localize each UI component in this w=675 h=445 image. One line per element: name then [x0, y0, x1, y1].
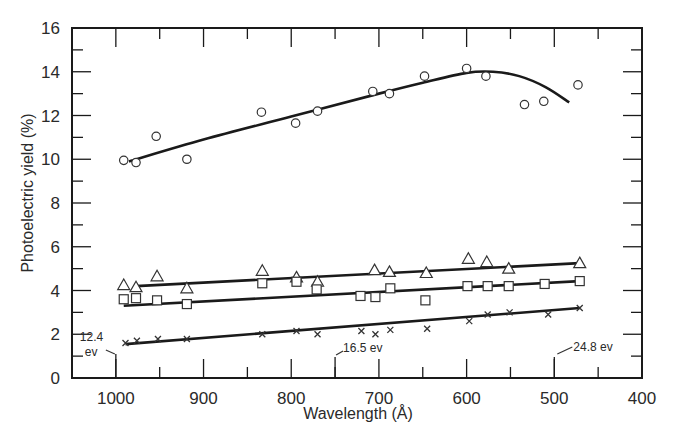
- data-markers: [118, 64, 586, 346]
- squares-marker: [575, 277, 584, 286]
- annotation-ev-unit: ev: [85, 345, 98, 359]
- crosses-marker: [358, 328, 364, 334]
- squares-marker: [292, 277, 301, 286]
- crosses-marker: [315, 331, 321, 337]
- crosses-marker: [466, 318, 472, 324]
- squares-marker: [504, 282, 513, 291]
- x-tick-label: 400: [628, 389, 656, 408]
- crosses-marker: [424, 326, 430, 332]
- x-tick-label: 500: [540, 389, 568, 408]
- circles-marker: [132, 158, 140, 166]
- squares-marker: [421, 296, 430, 305]
- fit-lines: [124, 71, 580, 344]
- y-tick-label: 8: [51, 194, 60, 213]
- y-tick-label: 2: [51, 325, 60, 344]
- squares-marker: [153, 296, 162, 305]
- triangles-marker: [462, 253, 474, 264]
- crosses-marker: [387, 327, 393, 333]
- circles-marker: [574, 81, 582, 89]
- circles-marker: [257, 108, 265, 116]
- y-tick-label: 4: [51, 282, 60, 301]
- crosses-marker: [372, 331, 378, 337]
- squares-marker: [371, 293, 380, 302]
- circles-marker: [420, 72, 428, 80]
- triangles-marker: [369, 264, 381, 275]
- y-axis-ticks: 0246810121416: [41, 19, 642, 388]
- arrow-icon: [557, 347, 572, 354]
- circles-marker: [520, 100, 528, 108]
- x-tick-label: 1000: [97, 389, 135, 408]
- annotation-12-4-ev: 12.4: [80, 330, 104, 344]
- circles-marker: [183, 155, 191, 163]
- squares-marker: [463, 282, 472, 291]
- photoelectric-yield-chart: 1000900800700600500400 0246810121416 12.…: [0, 0, 675, 445]
- squares-marker: [540, 279, 549, 288]
- squares-marker: [312, 285, 321, 294]
- circles-marker: [291, 119, 299, 127]
- squares-marker: [182, 300, 191, 309]
- circles-marker: [482, 72, 490, 80]
- arrow-icon: [106, 350, 115, 354]
- squares-marker: [386, 284, 395, 293]
- squares-marker: [119, 295, 128, 304]
- y-axis-title: Photoelectric yield (%): [19, 113, 36, 272]
- circles-marker: [120, 156, 128, 164]
- triangles-marker: [256, 265, 268, 276]
- squares-marker: [132, 294, 141, 303]
- squares-marker: [258, 279, 267, 288]
- circles-marker: [313, 107, 321, 115]
- circles-marker: [152, 132, 160, 140]
- y-tick-label: 0: [51, 369, 60, 388]
- y-tick-label: 12: [41, 107, 60, 126]
- triangles-marker: [118, 279, 130, 290]
- y-tick-label: 10: [41, 150, 60, 169]
- x-tick-label: 600: [452, 389, 480, 408]
- fit-curve-circles: [129, 71, 569, 161]
- circles-marker: [540, 97, 548, 105]
- x-tick-label: 800: [277, 389, 305, 408]
- crosses-marker: [545, 312, 551, 318]
- squares-marker: [483, 282, 492, 291]
- arrow-icon: [336, 351, 343, 355]
- y-tick-label: 16: [41, 19, 60, 38]
- annotation-24-8-ev: 24.8 ev: [573, 340, 612, 354]
- x-tick-label: 900: [189, 389, 217, 408]
- triangles-marker: [383, 266, 395, 277]
- triangles-marker: [151, 270, 163, 281]
- circles-marker: [385, 89, 393, 97]
- annotation-16-5-ev: 16.5 ev: [343, 341, 382, 355]
- y-tick-label: 6: [51, 238, 60, 257]
- y-tick-label: 14: [41, 63, 60, 82]
- triangles-marker: [481, 256, 493, 267]
- fit-line-crosses: [125, 308, 579, 344]
- squares-marker: [356, 291, 365, 300]
- x-axis-title: Wavelength (Å): [303, 404, 413, 422]
- circles-marker: [462, 64, 470, 72]
- circles-marker: [369, 87, 377, 95]
